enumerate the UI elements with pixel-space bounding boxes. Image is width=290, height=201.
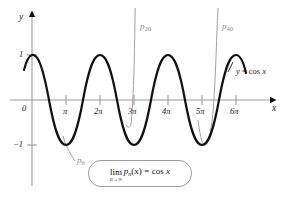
formula-result-fn: cos (152, 166, 164, 176)
x-tick-label-3pi: 3π (128, 107, 137, 116)
cos-label-fn: cos (249, 66, 260, 76)
x-tick-label-2pi: 2π (94, 107, 103, 116)
cosine-curve-label: y = cos x (236, 67, 266, 76)
x-tick-label-6pi: 6π (230, 107, 239, 116)
origin-label: 0 (22, 104, 26, 113)
p6-label-subscript: 6 (82, 159, 85, 166)
x-tick-label-5pi: 5π (196, 107, 205, 116)
p40-curve (198, 8, 218, 145)
cosine-taylor-figure: y x 0 1 −1 π 2π 3π 4π 5π 6π p20 p40 p6 y… (0, 0, 290, 201)
x-tick-label-pi: π (63, 107, 67, 116)
y-axis-label: y (19, 13, 23, 23)
p6-label: p6 (77, 156, 85, 165)
formula-function-subscript: n (128, 171, 131, 177)
limit-operator: lim n→∞ (110, 168, 122, 183)
p20-label-subscript: 20 (145, 25, 152, 32)
y-tick-label-minus1: −1 (13, 140, 23, 149)
p20-label: p20 (140, 22, 151, 31)
x-axis-label: x (272, 104, 276, 114)
formula-argument: (x) (131, 166, 142, 176)
limit-subscript: n→∞ (110, 177, 122, 183)
x-tick-label-4pi: 4π (162, 107, 171, 116)
formula-equals: = (144, 166, 149, 176)
formula-result-var: x (166, 166, 170, 176)
p6-label-name: p (77, 155, 82, 165)
cos-label-var: x (262, 66, 266, 76)
limit-formula: lim n→∞ pn(x)=cos x (110, 166, 170, 182)
cos-label-equals: = (242, 66, 247, 76)
p40-label-name: p (222, 21, 227, 31)
p40-label: p40 (222, 22, 233, 31)
p40-label-subscript: 40 (227, 25, 234, 32)
y-tick-label-1: 1 (19, 50, 23, 59)
limit-formula-box: lim n→∞ pn(x)=cos x (88, 160, 192, 187)
p20-label-name: p (140, 21, 145, 31)
